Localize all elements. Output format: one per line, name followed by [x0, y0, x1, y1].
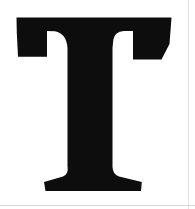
image-canvas: T [0, 0, 195, 209]
scan-rule-bottom [0, 205, 195, 206]
letter-t-glyph [0, 0, 195, 209]
scan-rule-right [188, 0, 189, 209]
